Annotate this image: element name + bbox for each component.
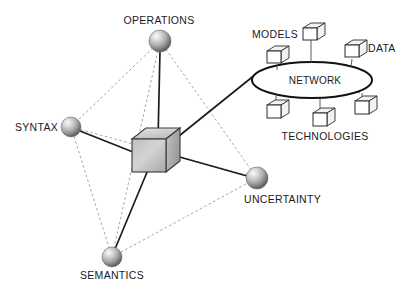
edge-core-semantics	[115, 165, 150, 249]
network-label-data: DATA	[368, 42, 396, 54]
concept-diagram: NETWORK	[0, 0, 406, 297]
sphere-operations	[149, 30, 171, 52]
network-label-technologies: TECHNOLOGIES	[281, 130, 368, 142]
edge-operations-syntax	[71, 41, 160, 127]
network-label: NETWORK	[289, 75, 342, 86]
terminal-models-upper	[303, 23, 325, 63]
terminal-box-face	[345, 45, 359, 57]
terminal-box-face	[313, 113, 327, 126]
core-cube-node	[132, 128, 180, 172]
edge-core-uncertainty	[176, 156, 247, 176]
terminal-tech-right	[355, 93, 377, 114]
network-group: NETWORK	[252, 23, 396, 142]
terminal-data	[345, 40, 367, 67]
edge-core-network	[174, 74, 256, 140]
label-operations: OPERATIONS	[123, 14, 194, 26]
diagram-canvas: NETWORK	[0, 0, 406, 297]
edge-syntax-semantics	[71, 127, 112, 257]
terminal-box-face	[267, 105, 281, 118]
label-syntax: SYNTAX	[15, 121, 58, 133]
sphere-semantics	[102, 247, 122, 267]
label-uncertainty: UNCERTAINTY	[244, 193, 321, 205]
terminal-tech-left	[267, 94, 289, 118]
label-semantics: SEMANTICS	[80, 269, 144, 281]
terminal-box-face	[355, 101, 369, 114]
terminal-tech-center	[313, 98, 335, 126]
terminal-box-face	[267, 51, 281, 63]
network-label-models: MODELS	[252, 28, 298, 40]
edge-core-operations	[158, 50, 160, 140]
edge-semantics-uncertainty	[112, 178, 257, 257]
terminal-box-face	[303, 28, 317, 40]
sphere-syntax	[61, 117, 81, 137]
cube-front-face	[132, 139, 166, 172]
sphere-uncertainty	[246, 167, 268, 189]
